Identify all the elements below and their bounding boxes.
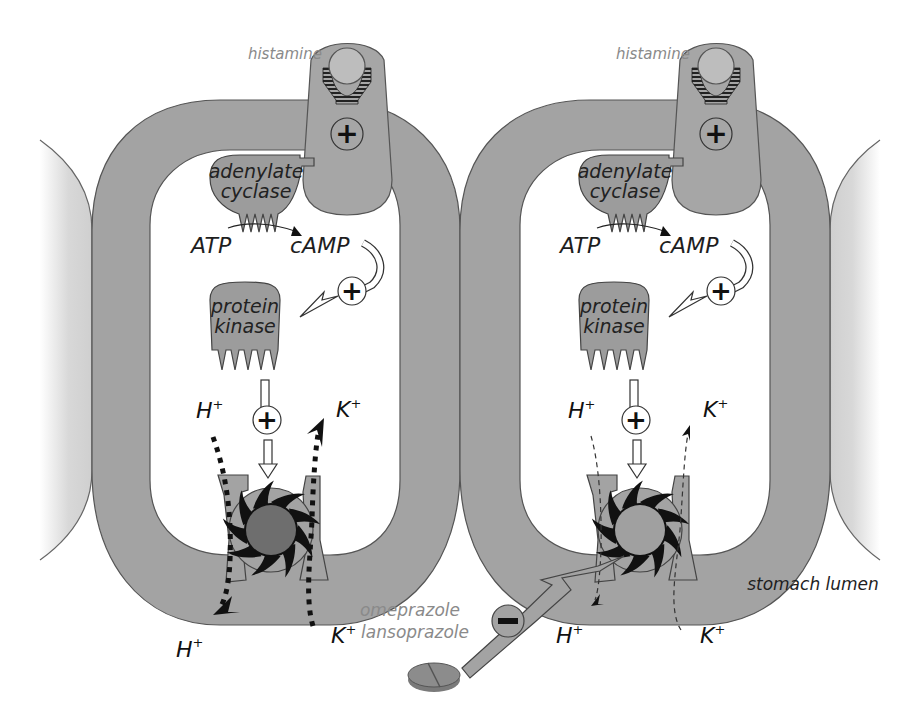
- plus-icon: +: [341, 276, 363, 306]
- camp-label: cAMP: [290, 233, 350, 258]
- adenylate-cyclase-right: adenylate cyclase: [578, 155, 683, 232]
- svg-text:cyclase: cyclase: [221, 180, 292, 202]
- minus-icon: [498, 618, 518, 624]
- pump-core: [246, 505, 296, 555]
- k-ion-in-left: K+: [336, 396, 361, 422]
- plus-icon: +: [704, 117, 727, 150]
- plus-icon: +: [256, 405, 278, 435]
- drug-label-omeprazole: omeprazole: [360, 600, 460, 620]
- svg-text:adenylate: adenylate: [578, 160, 673, 182]
- histamine-receptor-left: +: [303, 44, 392, 216]
- atp-label: ATP: [189, 233, 232, 258]
- histamine-molecule: [698, 48, 734, 84]
- protein-kinase-right: protein kinase: [579, 282, 649, 370]
- plus-icon: +: [625, 405, 647, 435]
- svg-text:adenylate: adenylate: [209, 160, 304, 182]
- k-ion-out-left: K+: [331, 622, 356, 648]
- diagram-canvas: + histamine adenylate cyclase ATP cAMP +…: [0, 0, 919, 714]
- pill-icon: [408, 663, 460, 692]
- pump-core-inhibited: [615, 505, 665, 555]
- svg-text:kinase: kinase: [214, 315, 276, 337]
- plus-icon: +: [710, 276, 732, 306]
- histamine-molecule: [329, 48, 365, 84]
- histamine-receptor-right: +: [672, 44, 761, 216]
- k-ion-out-right: K+: [700, 622, 725, 648]
- adenylate-cyclase-left: adenylate cyclase: [209, 155, 314, 232]
- h-ion-out-right: H+: [556, 622, 583, 648]
- k-ion-in-right: K+: [703, 396, 728, 422]
- activation-arrow-kinase-left: +: [253, 380, 281, 478]
- svg-text:protein: protein: [579, 295, 648, 317]
- h-ion-out-left: H+: [176, 635, 203, 662]
- drug-label-lansoprazole: lansoprazole: [361, 622, 469, 642]
- svg-text:kinase: kinase: [583, 315, 645, 337]
- stomach-lumen-label: stomach lumen: [747, 574, 879, 594]
- h-ion-in-left: H+: [196, 397, 223, 423]
- histamine-label: histamine: [616, 45, 690, 63]
- svg-text:cyclase: cyclase: [590, 180, 661, 202]
- plus-icon: +: [335, 117, 358, 150]
- svg-text:protein: protein: [210, 295, 279, 317]
- protein-kinase-left: protein kinase: [210, 282, 280, 370]
- neighbor-cell-right: [830, 140, 880, 560]
- neighbor-cell-left: [40, 140, 92, 560]
- histamine-label: histamine: [248, 45, 322, 63]
- atp-label: ATP: [558, 233, 601, 258]
- activation-arrow-kinase-right: +: [622, 380, 650, 478]
- camp-label: cAMP: [659, 233, 719, 258]
- h-ion-in-right: H+: [568, 397, 595, 423]
